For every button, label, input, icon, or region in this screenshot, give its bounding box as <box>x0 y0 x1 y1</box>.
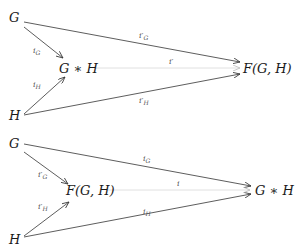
edge-iG <box>24 144 251 186</box>
diagram-bottom: G H F(G, H) G ∗ H i′G i′H iG iH i <box>8 136 294 247</box>
node-F: F(G, H) <box>65 183 115 198</box>
label-iG: iG <box>33 46 41 56</box>
label-iH: iH <box>33 80 42 90</box>
edge-iH-prime <box>24 74 240 115</box>
label-iH-prime: i′H <box>139 96 149 106</box>
node-H: H <box>8 232 21 247</box>
node-free-product: G ∗ H <box>59 61 98 76</box>
edge-iG-prime <box>24 22 240 62</box>
node-free-product: G ∗ H <box>255 183 294 198</box>
label-iH-prime: i′H <box>38 202 48 212</box>
label-iH: iH <box>143 207 152 217</box>
edge-iG <box>24 27 63 58</box>
label-i: i <box>177 179 180 188</box>
label-i-prime: i′ <box>169 57 174 66</box>
node-F: F(G, H) <box>242 61 292 76</box>
node-H: H <box>8 108 21 123</box>
commutative-diagrams: G H G ∗ H F(G, H) iG iH i′G i′H i′ G H F… <box>0 0 299 249</box>
label-iG-prime: i′G <box>139 31 148 41</box>
label-iG: iG <box>143 154 151 164</box>
diagram-top: G H G ∗ H F(G, H) iG iH i′G i′H i′ <box>8 10 292 123</box>
label-iG-prime: i′G <box>38 170 47 180</box>
node-G: G <box>9 136 19 151</box>
node-G: G <box>9 10 19 25</box>
edge-iH <box>24 194 251 237</box>
